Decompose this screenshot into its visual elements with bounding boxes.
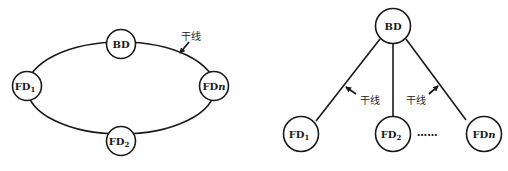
tree-node-fdn: FDn — [467, 117, 502, 152]
ring-node-bd: BD — [107, 30, 136, 59]
svg-text:FDn: FDn — [472, 129, 495, 140]
svg-text:BD: BD — [112, 39, 129, 50]
svg-text:BD: BD — [384, 21, 401, 32]
tree-node-fd2: FD2 — [376, 117, 411, 152]
tree-trunk-line-fd1 — [316, 39, 380, 121]
ring-trunk-label: 干线 — [181, 30, 201, 42]
tree-trunk-label-left: 干线 — [360, 94, 380, 106]
tree-trunk-label-right: 干线 — [406, 94, 426, 106]
ring-trunk-arrow-icon — [180, 42, 189, 53]
tree-node-fd1: FD1 — [284, 117, 319, 152]
ring-node-fdn: FDn — [200, 72, 229, 101]
tree-trunk-arrow-right-icon — [429, 86, 438, 94]
ring-topology: 干线 BD FD1 FDn FD2 — [13, 30, 229, 156]
tree-ellipsis: …… — [417, 127, 438, 138]
tree-topology: 干线 干线 BD FD1 FD2 …… FDn — [284, 9, 502, 152]
tree-node-bd: BD — [376, 9, 411, 44]
tree-trunk-line-fdn — [406, 39, 466, 120]
diagram-canvas: 干线 BD FD1 FDn FD2 干线 干线 — [0, 0, 508, 171]
svg-text:FDn: FDn — [202, 81, 225, 92]
tree-trunk-arrow-left-icon — [346, 87, 356, 94]
ring-node-fd2: FD2 — [107, 127, 136, 156]
ring-node-fd1: FD1 — [13, 72, 42, 101]
